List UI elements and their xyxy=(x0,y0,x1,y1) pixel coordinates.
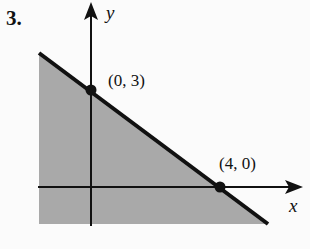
x-axis-label: x xyxy=(288,195,298,216)
point-0-3 xyxy=(86,85,97,96)
point-4-0 xyxy=(215,182,226,193)
point-label-4-0: (4, 0) xyxy=(219,154,256,173)
point-label-0-3: (0, 3) xyxy=(108,71,145,90)
y-axis-label: y xyxy=(104,2,115,23)
graph: 3. y x (0, 3) (4, 0) xyxy=(0,0,310,249)
problem-number: 3. xyxy=(6,6,22,30)
